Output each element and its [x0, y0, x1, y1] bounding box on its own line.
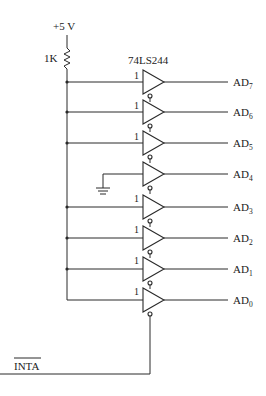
buffer-icon: [143, 195, 164, 219]
buffer-row-ad5: 1 AD5: [65, 131, 252, 163]
svg-text:AD7: AD7: [233, 76, 253, 91]
buffer-icon: [143, 100, 164, 124]
buffer-row-ad0: 1 AD0: [67, 286, 253, 316]
svg-text:AD2: AD2: [233, 232, 253, 247]
svg-text:AD0: AD0: [233, 294, 253, 309]
svg-text:1: 1: [134, 70, 139, 81]
svg-text:AD4: AD4: [233, 168, 253, 183]
svg-text:1: 1: [134, 100, 139, 111]
svg-text:AD3: AD3: [233, 201, 253, 216]
buffer-row-ad4: AD4: [96, 162, 253, 194]
buffer-row-ad6: 1 AD6: [65, 100, 252, 132]
buffer-row-ad1: 1 AD1: [65, 255, 252, 289]
buffer-icon: [143, 257, 164, 281]
svg-text:1: 1: [134, 224, 139, 235]
buffer-row-ad2: 1 AD2: [65, 224, 252, 258]
buffer-icon: [143, 131, 164, 155]
buffer-row-ad7: 1 AD7: [65, 70, 252, 102]
svg-text:1: 1: [134, 193, 139, 204]
supply-label: +5 V: [53, 20, 75, 32]
svg-text:AD6: AD6: [233, 106, 253, 121]
circuit-diagram: +5 V 1K 74LS244 1 AD7 1 AD6 1: [0, 0, 266, 396]
resistor-label: 1K: [44, 52, 58, 64]
buffer-icon: [143, 288, 164, 312]
inta-label: INTA: [14, 360, 39, 372]
resistor-icon: [64, 48, 70, 69]
svg-text:1: 1: [134, 286, 139, 297]
svg-text:AD1: AD1: [233, 263, 253, 278]
buffer-icon: [143, 70, 164, 94]
chip-label: 74LS244: [128, 54, 169, 66]
ground-icon: [96, 188, 110, 194]
buffer-icon: [143, 226, 164, 250]
svg-text:1: 1: [134, 131, 139, 142]
buffer-icon: [143, 162, 164, 186]
svg-text:AD5: AD5: [233, 137, 253, 152]
svg-text:1: 1: [134, 255, 139, 266]
buffer-row-ad3: 1 AD3: [65, 193, 252, 227]
